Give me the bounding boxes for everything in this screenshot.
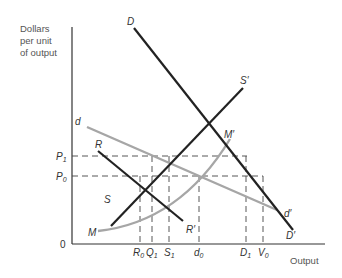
m-curve <box>98 139 230 231</box>
s1-label: S1 <box>164 247 175 259</box>
v0-label: V0 <box>258 247 269 259</box>
s-start-label: S <box>104 194 111 205</box>
y-axis-title-line-2: per unit <box>20 35 52 46</box>
r-curve <box>98 151 183 221</box>
r-start-label: R <box>95 139 102 150</box>
d0-label: d0 <box>194 247 204 259</box>
y-axis-title-line-3: of output <box>20 47 57 58</box>
x-axis-title: Output <box>290 255 319 266</box>
d-upper-start-label: D <box>127 16 134 27</box>
economics-diagram: Dollars per unit of output 0 Output P1 P… <box>0 0 342 278</box>
d1-label: D1 <box>240 247 251 259</box>
d-curve <box>87 127 277 210</box>
r0-label: R0 <box>133 247 144 259</box>
p1-label: P1 <box>56 151 67 163</box>
y-axis-title-line-1: Dollars <box>20 23 50 34</box>
s-end-label: S′ <box>240 75 250 86</box>
r-end-label: R′ <box>186 224 196 235</box>
origin-label: 0 <box>60 239 66 250</box>
d-upper-end-label: D′ <box>286 230 296 241</box>
m-end-label: M′ <box>224 129 235 140</box>
p0-label: P0 <box>56 171 67 183</box>
m-start-label: M <box>88 227 97 238</box>
supply-curve-S <box>111 88 243 226</box>
q1-label: Q1 <box>146 247 158 259</box>
d-lower-start-label: d <box>75 116 81 127</box>
d-lower-end-label: d′ <box>284 208 293 219</box>
